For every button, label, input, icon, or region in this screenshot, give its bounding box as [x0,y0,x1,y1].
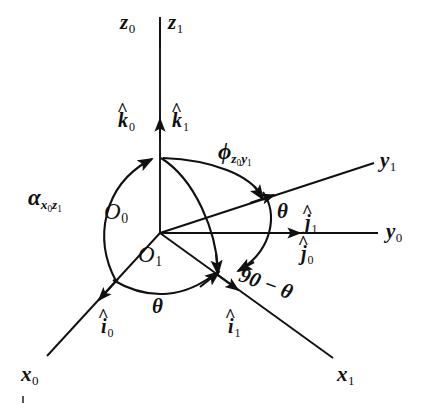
angle-label-alpha: αx0z1 [28,186,62,214]
unit-vector-label-k0: ^k0 [118,110,135,133]
angle-label-theta-upper: θ [277,201,288,222]
unit-vector-label-i0: ^i0 [101,316,114,339]
unit-vector-label-k1: ^k1 [172,110,189,133]
arc-right-lobe [238,192,271,271]
origin-label-O1: O1 [138,243,162,269]
axis-label-z1: z1 [168,12,183,35]
angle-label-theta-lower: θ [152,296,163,317]
diagram-canvas [0,0,435,408]
axis-label-x0: x0 [21,364,39,387]
origin-label-O0: O0 [104,200,128,226]
coordinate-frame-diagram: z0 z1 ^k0 ^k1 ϕz0y1 αx0z1 y1 y0 O0 O1 θ … [0,0,435,408]
axis-label-x1: x1 [337,364,355,387]
axis-label-y1: y1 [380,150,396,173]
axis-label-z0: z0 [120,12,135,35]
angle-label-phi: ϕz0y1 [218,140,252,168]
arc-theta-bottom [113,272,219,294]
unit-vector-label-j0: ^j0 [301,243,314,266]
unit-vector-label-i1: ^i1 [228,316,241,339]
axis-label-y0: y0 [386,221,402,244]
